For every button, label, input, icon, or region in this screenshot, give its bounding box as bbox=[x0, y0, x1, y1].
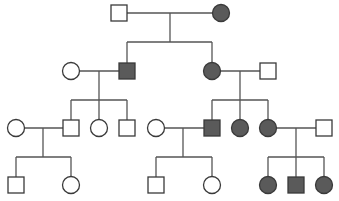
affected-male-square bbox=[204, 120, 220, 136]
affected-female-circle bbox=[260, 120, 277, 137]
affected-female-circle bbox=[260, 177, 277, 194]
affected-female-circle bbox=[213, 5, 230, 22]
unaffected-male-square bbox=[8, 177, 24, 193]
unaffected-male-square bbox=[148, 177, 164, 193]
unaffected-male-square bbox=[63, 120, 79, 136]
affected-female-circle bbox=[316, 177, 333, 194]
unaffected-female-circle bbox=[148, 120, 165, 137]
unaffected-female-circle bbox=[63, 63, 80, 80]
unaffected-female-circle bbox=[204, 177, 221, 194]
pedigree-lines bbox=[16, 13, 324, 177]
affected-male-square bbox=[119, 63, 135, 79]
unaffected-female-circle bbox=[8, 120, 25, 137]
pedigree-chart bbox=[0, 0, 339, 201]
unaffected-female-circle bbox=[91, 120, 108, 137]
unaffected-male-square bbox=[316, 120, 332, 136]
unaffected-male-square bbox=[119, 120, 135, 136]
unaffected-male-square bbox=[260, 63, 276, 79]
unaffected-female-circle bbox=[63, 177, 80, 194]
unaffected-male-square bbox=[111, 5, 127, 21]
affected-male-square bbox=[288, 177, 304, 193]
affected-female-circle bbox=[204, 63, 221, 80]
affected-female-circle bbox=[232, 120, 249, 137]
